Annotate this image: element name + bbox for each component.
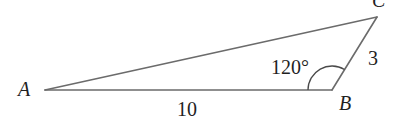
vertex-label-a: A — [16, 78, 31, 100]
side-label-ab: 10 — [177, 98, 197, 120]
side-label-bc: 3 — [368, 47, 378, 69]
vertex-label-b: B — [339, 92, 351, 114]
side-ac — [45, 17, 377, 90]
vertex-label-c: C — [372, 0, 386, 11]
angle-label-b: 120° — [271, 56, 309, 78]
triangle-diagram: A B C 10 3 120° — [0, 0, 397, 133]
